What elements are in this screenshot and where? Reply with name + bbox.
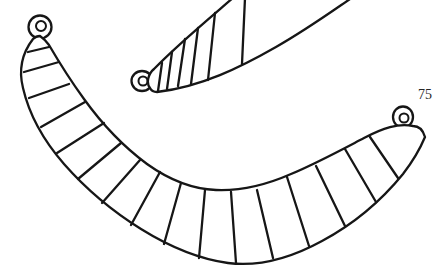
figure-number: 75 [413,87,437,103]
small-pendant [132,0,354,92]
large-pendant-right-loop-inner-icon [400,114,409,123]
small-pendant-loop-inner-icon [139,77,148,86]
large-pendant-left-loop-inner-icon [36,21,46,31]
scanned-figure-page: 75 [0,0,439,276]
figure-drawing [0,0,439,276]
